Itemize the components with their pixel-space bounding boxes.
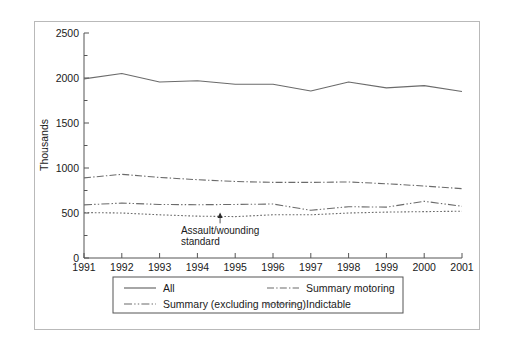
x-tick-label: 1991	[72, 261, 96, 273]
series-line-indictable	[84, 211, 462, 216]
x-tick-label: 2001	[450, 261, 474, 273]
legend-label-indictable: Indictable	[306, 298, 351, 310]
legend-label-summary-motoring: Summary motoring	[306, 282, 395, 294]
x-tick-label: 1999	[375, 261, 399, 273]
x-tick-labels: 1991 1992 1993 1994 1995 1996 1997 1998 …	[72, 261, 474, 273]
annotation-assault-wounding: Assault/wounding standard	[181, 213, 259, 248]
x-tick-label: 1992	[110, 261, 134, 273]
series-line-summary-excluding-motoring	[84, 201, 462, 210]
series-line-summary-motoring	[84, 174, 462, 188]
y-tick-label: 500	[61, 207, 79, 219]
x-tick-label: 1997	[299, 261, 323, 273]
x-tick-label: 1995	[224, 261, 248, 273]
y-tick-label: 1000	[56, 162, 80, 174]
y-tick-label: 2500	[56, 27, 80, 39]
annotation-line-2: standard	[181, 236, 220, 247]
y-minor-ticks	[84, 56, 88, 236]
chart-figure: Thousands 2500 2000 1500 1000 500 0	[0, 0, 505, 350]
legend-label-all: All	[163, 282, 175, 294]
x-axis-ticks	[84, 253, 462, 258]
x-tick-label: 1998	[337, 261, 361, 273]
x-tick-label: 2000	[413, 261, 437, 273]
y-axis-title: Thousands	[38, 119, 50, 171]
data-series-group	[84, 74, 462, 217]
x-tick-label: 1993	[148, 261, 172, 273]
line-chart: Thousands 2500 2000 1500 1000 500 0	[0, 0, 505, 350]
y-tick-label: 2000	[56, 72, 80, 84]
annotation-line-1: Assault/wounding	[181, 225, 259, 236]
y-tick-label: 1500	[56, 117, 80, 129]
series-line-all	[84, 74, 462, 92]
x-tick-label: 1996	[261, 261, 285, 273]
y-tick-labels: 2500 2000 1500 1000 500 0	[56, 27, 80, 264]
chart-legend[interactable]: All Summary motoring Summary (excluding …	[113, 277, 403, 313]
legend-label-summary-excluding-motoring: Summary (excluding motoring)	[163, 298, 306, 310]
x-tick-label: 1994	[186, 261, 210, 273]
